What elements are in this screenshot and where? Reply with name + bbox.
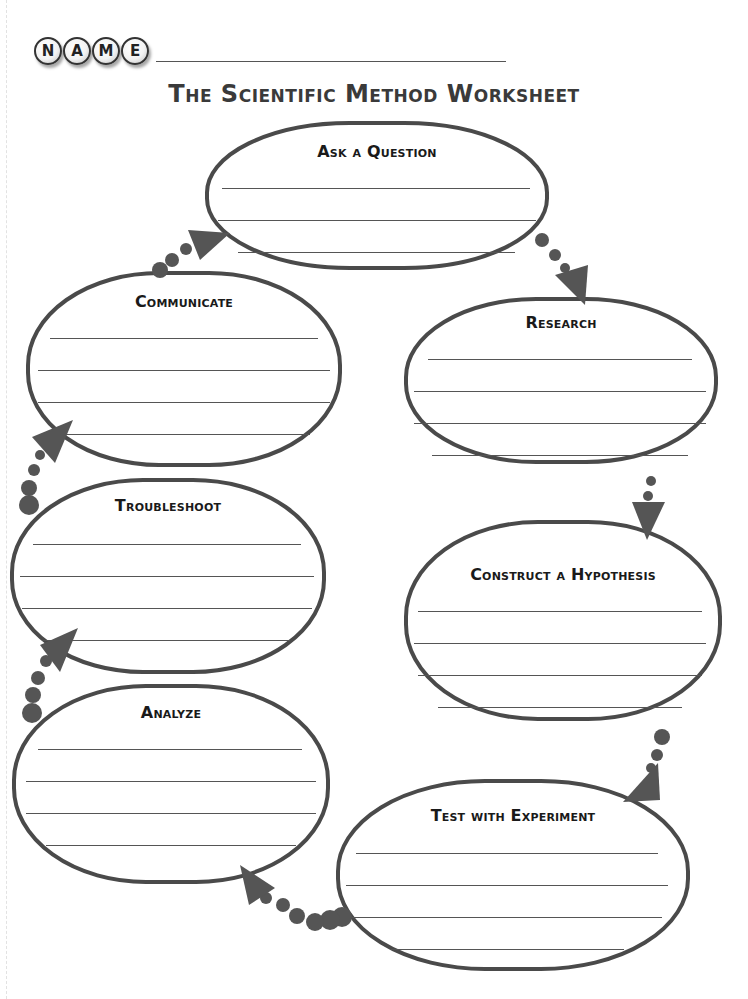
connector-dot [35, 450, 45, 460]
answer-line-analyze[interactable] [46, 831, 296, 846]
connector-dot [31, 671, 45, 685]
step-label-communicate: Communicate [28, 292, 340, 311]
answer-line-analyze[interactable] [26, 799, 316, 814]
answer-line-test-with-experiment[interactable] [346, 871, 668, 886]
step-label-construct-a-hypothesis: Construct a Hypothesis [406, 565, 720, 584]
answer-line-communicate[interactable] [38, 356, 330, 371]
answer-line-analyze[interactable] [26, 767, 316, 782]
connector-dot [289, 908, 305, 924]
connector-dot [651, 749, 663, 761]
answer-line-communicate[interactable] [50, 420, 310, 435]
answer-line-research[interactable] [428, 345, 692, 360]
answer-line-troubleshoot[interactable] [33, 530, 301, 545]
answer-line-test-with-experiment[interactable] [356, 839, 658, 854]
connector-dot [643, 491, 653, 501]
step-label-research: Research [406, 313, 716, 332]
connector-dot [306, 913, 324, 931]
step-label-test-with-experiment: Test with Experiment [338, 806, 688, 825]
answer-line-research[interactable] [414, 409, 706, 424]
connector-dot [165, 253, 179, 267]
connector-dot [535, 233, 549, 247]
connector-dot [21, 480, 37, 496]
step-label-ask-a-question: Ask a Question [207, 142, 547, 161]
answer-line-construct-a-hypothesis[interactable] [438, 693, 682, 708]
answer-line-ask-a-question[interactable] [218, 206, 536, 221]
answer-line-research[interactable] [432, 441, 688, 456]
arrow-head-icon [623, 763, 660, 802]
arrow-head-icon [188, 230, 230, 260]
connector-dot [654, 729, 670, 745]
answer-line-troubleshoot[interactable] [20, 562, 314, 577]
answer-line-communicate[interactable] [50, 324, 318, 339]
connector-dot [25, 687, 41, 703]
step-label-troubleshoot: Troubleshoot [12, 496, 324, 515]
step-label-analyze: Analyze [14, 703, 328, 722]
answer-line-construct-a-hypothesis[interactable] [418, 661, 702, 676]
connector-dot [152, 262, 168, 278]
step-bubble-construct-a-hypothesis [406, 522, 720, 719]
answer-line-troubleshoot[interactable] [22, 594, 312, 609]
answer-line-ask-a-question[interactable] [222, 174, 530, 189]
connector-dot [180, 243, 192, 255]
answer-line-construct-a-hypothesis[interactable] [418, 597, 702, 612]
answer-line-construct-a-hypothesis[interactable] [414, 629, 706, 644]
answer-line-test-with-experiment[interactable] [352, 903, 662, 918]
connector-dot [28, 464, 40, 476]
connector-dot [276, 898, 290, 912]
connector-dot [549, 249, 561, 261]
answer-line-analyze[interactable] [38, 735, 302, 750]
answer-line-test-with-experiment[interactable] [390, 935, 624, 950]
answer-line-troubleshoot[interactable] [42, 626, 290, 641]
connector-dot [646, 476, 656, 486]
answer-line-ask-a-question[interactable] [238, 238, 515, 253]
answer-line-research[interactable] [414, 377, 706, 392]
answer-line-communicate[interactable] [38, 388, 330, 403]
